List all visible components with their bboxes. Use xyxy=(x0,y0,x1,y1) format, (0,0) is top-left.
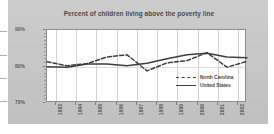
chart-title: Percent of children living above the pov… xyxy=(34,10,244,18)
x-axis-tick-mark xyxy=(156,102,157,105)
y-axis-tick-label: 80% xyxy=(3,63,25,69)
x-axis-tick-label: 1993 xyxy=(57,104,63,115)
legend-swatch-solid-icon xyxy=(176,85,196,86)
x-axis-tick-mark xyxy=(116,102,117,105)
x-axis-tick-mark xyxy=(197,102,198,105)
x-axis-tick-label: 1996 xyxy=(118,104,124,115)
x-axis-tick-label: 1998 xyxy=(158,104,164,115)
legend-label: North Carolina xyxy=(200,74,233,82)
x-axis-tick-mark xyxy=(217,102,218,105)
x-axis-tick-label: 2000 xyxy=(199,104,205,115)
chart-figure: Percent of children living above the pov… xyxy=(0,0,274,134)
x-axis-tick-label: 1997 xyxy=(138,104,144,115)
y-axis-minor-tick xyxy=(44,102,46,103)
legend-swatch-dashed-icon xyxy=(176,77,196,78)
x-axis-tick-mark xyxy=(237,102,238,105)
chart-legend: North Carolina United States xyxy=(176,74,244,90)
y-axis-tick-label: 70% xyxy=(3,99,25,105)
y-axis-tick-label: 90% xyxy=(3,26,25,32)
x-axis-tick-mark xyxy=(136,102,137,105)
x-axis-tick-mark xyxy=(55,102,56,105)
series-lines xyxy=(47,30,247,103)
page-edge-mark xyxy=(0,55,7,56)
x-axis-tick-label: 1994 xyxy=(77,104,83,115)
legend-item-united-states: United States xyxy=(176,82,244,90)
plot-area xyxy=(46,29,246,102)
legend-item-north-carolina: North Carolina xyxy=(176,74,244,82)
page-edge-mark xyxy=(0,78,7,79)
x-axis-tick-label: 1999 xyxy=(178,104,184,115)
x-axis-tick-label: 1995 xyxy=(97,104,103,115)
x-axis-tick-label: 2001 xyxy=(219,104,225,115)
legend-label: United States xyxy=(200,82,231,90)
x-axis-tick-label: 2002 xyxy=(239,104,245,115)
